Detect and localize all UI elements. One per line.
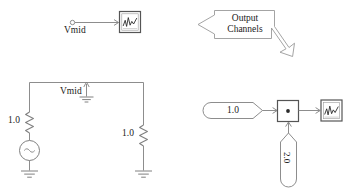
callout-line-2: Channels [222,24,268,35]
probe-signal-label: Vmid [64,26,86,36]
circuit-node-label: Vmid [60,87,82,97]
resistor-icon-left[interactable] [26,112,34,133]
constant-a-value: 1.0 [227,106,239,116]
right-resistor-value: 1.0 [122,129,134,139]
callout-line-1: Output [222,13,268,24]
resistor-icon-right[interactable] [140,125,148,146]
constant-b-value: 2.0 [282,152,292,163]
diagram-canvas: Vmid Output Channels Vmid 1.0 1.0 1.0 2.… [0,0,351,192]
block-diagram-group [203,100,342,187]
diagram-vector-layer [0,0,351,192]
multiply-dot-glyph [286,109,290,113]
left-resistor-value: 1.0 [8,116,20,126]
